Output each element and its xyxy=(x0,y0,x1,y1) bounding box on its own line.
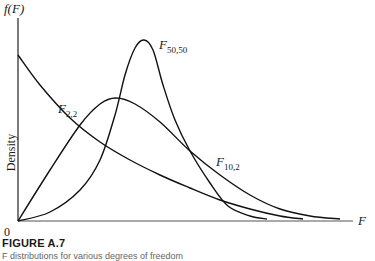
label-f-50-50: F50,50 xyxy=(159,37,187,55)
figure-caption: F distributions for various degrees of f… xyxy=(2,251,183,261)
y-axis-label: Density xyxy=(4,128,19,178)
figure-title: FIGURE A.7 xyxy=(2,237,65,249)
curve-f-2-2 xyxy=(18,55,303,219)
y-axis-function-label: f(F) xyxy=(4,1,24,17)
label-f-2-2: F2,2 xyxy=(58,101,77,119)
label-f-10-2: F10,2 xyxy=(216,154,240,172)
x-axis-label: F xyxy=(358,213,366,229)
curve-f-50-50 xyxy=(18,40,267,221)
